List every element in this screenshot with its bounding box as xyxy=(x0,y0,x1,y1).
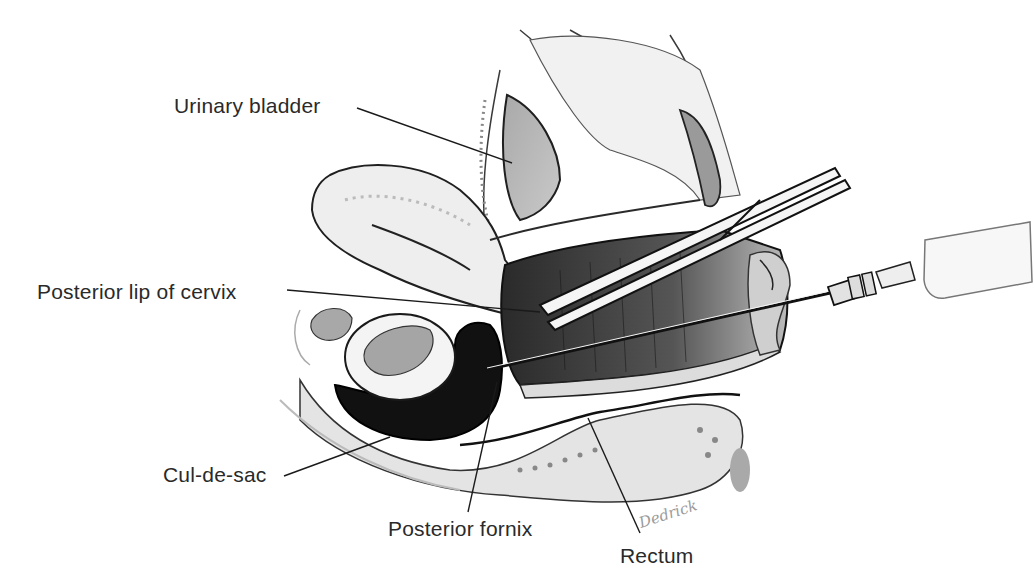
label-cul-de-sac: Cul-de-sac xyxy=(163,464,267,485)
label-urinary-bladder: Urinary bladder xyxy=(174,95,321,116)
syringe-barrel xyxy=(924,222,1032,298)
label-rectum: Rectum xyxy=(620,545,694,566)
anatomical-illustration: Urinary bladder Posterior lip of cervix … xyxy=(0,0,1035,574)
urinary-bladder-shape xyxy=(503,95,560,220)
label-posterior-fornix: Posterior fornix xyxy=(388,518,532,539)
syringe xyxy=(828,222,1032,305)
bowel-segment xyxy=(311,308,352,340)
label-posterior-lip-of-cervix: Posterior lip of cervix xyxy=(37,281,237,302)
